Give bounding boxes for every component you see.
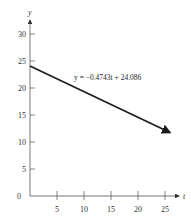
line-chart: y t 0 5 10 15 20 25 30 5 10 15 20 25 y =… (0, 0, 191, 224)
y-tick-label-0: 0 (17, 192, 21, 201)
x-tick-label-25: 25 (161, 205, 169, 214)
equation-label: y = −0.4743t + 24.086 (74, 73, 142, 82)
x-tick-label-10: 10 (80, 205, 88, 214)
y-ticks: 0 5 10 15 20 25 30 (17, 30, 35, 201)
x-tick-label-5: 5 (55, 205, 59, 214)
x-ticks: 5 10 15 20 25 (55, 191, 169, 214)
y-tick-label-30: 30 (18, 30, 26, 39)
x-tick-label-15: 15 (107, 205, 115, 214)
y-tick-label-5: 5 (22, 165, 26, 174)
y-tick-label-20: 20 (18, 84, 26, 93)
x-axis-label: t (183, 192, 186, 201)
y-axis-label: y (27, 8, 32, 17)
y-tick-label-10: 10 (18, 138, 26, 147)
y-tick-label-15: 15 (18, 111, 26, 120)
x-tick-label-20: 20 (134, 205, 142, 214)
y-tick-label-25: 25 (18, 57, 26, 66)
